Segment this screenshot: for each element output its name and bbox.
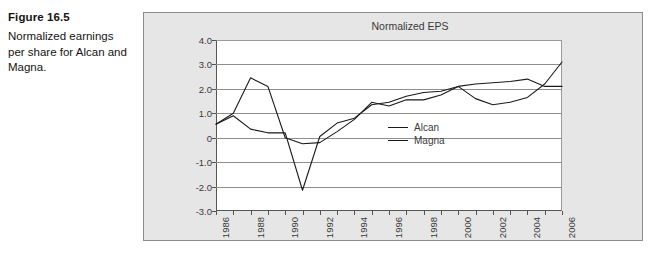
x-axis-tick xyxy=(303,211,304,215)
x-axis-tick xyxy=(458,211,459,215)
y-axis-tick-label: 4.0 xyxy=(199,35,212,46)
x-axis-tick xyxy=(527,211,528,215)
y-axis-tick-label: -1.0 xyxy=(196,157,212,168)
y-axis-tick-label: 0 xyxy=(207,132,212,143)
x-axis-tick-label: 2004 xyxy=(531,217,542,238)
gridline xyxy=(216,162,562,163)
x-axis-tick xyxy=(406,211,407,215)
chart-panel: Normalized EPS 4.03.02.01.00-1.0-2.0-3.0… xyxy=(143,12,643,241)
x-axis-tick-label: 1990 xyxy=(289,217,300,238)
legend-item-alcan: Alcan xyxy=(388,121,474,134)
figure-container: Figure 16.5 Normalized earnings per shar… xyxy=(0,0,651,257)
legend-label-magna: Magna xyxy=(414,134,445,147)
x-axis-tick-label: 1992 xyxy=(324,217,335,238)
x-axis-tick-label: 2002 xyxy=(497,217,508,238)
legend-label-alcan: Alcan xyxy=(414,121,439,134)
x-axis-tick-label: 1996 xyxy=(393,217,404,238)
legend-swatch-magna xyxy=(388,140,408,141)
x-axis-tick xyxy=(285,211,286,215)
y-axis-tick xyxy=(212,187,216,188)
x-axis-tick xyxy=(441,211,442,215)
y-axis-tick-label: -2.0 xyxy=(196,181,212,192)
y-axis-tick-label: 2.0 xyxy=(199,83,212,94)
gridline xyxy=(216,187,562,188)
y-axis-tick-label: 1.0 xyxy=(199,108,212,119)
figure-caption: Figure 16.5 Normalized earnings per shar… xyxy=(8,10,130,76)
legend-item-magna: Magna xyxy=(388,134,474,147)
x-axis-tick-label: 1986 xyxy=(220,217,231,238)
x-axis-tick xyxy=(545,211,546,215)
x-axis-tick xyxy=(562,211,563,215)
x-axis-tick xyxy=(389,211,390,215)
y-axis-tick xyxy=(212,40,216,41)
y-axis-tick xyxy=(212,138,216,139)
x-axis-tick xyxy=(493,211,494,215)
gridline xyxy=(216,89,562,90)
y-axis-tick xyxy=(212,113,216,114)
y-axis-tick xyxy=(212,64,216,65)
x-axis-tick xyxy=(354,211,355,215)
y-axis-tick xyxy=(212,162,216,163)
chart-title: Normalized EPS xyxy=(144,20,642,32)
x-axis-tick-label: 1988 xyxy=(255,217,266,238)
x-axis-tick xyxy=(372,211,373,215)
x-axis-tick-label: 1998 xyxy=(428,217,439,238)
y-axis-tick-label: 3.0 xyxy=(199,59,212,70)
x-axis-tick xyxy=(233,211,234,215)
x-axis-tick xyxy=(510,211,511,215)
x-axis-tick xyxy=(424,211,425,215)
y-axis-tick xyxy=(212,89,216,90)
x-axis-tick xyxy=(476,211,477,215)
figure-description: Normalized earnings per share for Alcan … xyxy=(8,29,130,76)
y-axis-tick-label: -3.0 xyxy=(196,206,212,217)
x-axis-tick xyxy=(337,211,338,215)
gridline xyxy=(216,113,562,114)
gridline xyxy=(216,64,562,65)
figure-number: Figure 16.5 xyxy=(8,10,130,25)
x-axis-tick xyxy=(268,211,269,215)
x-axis-tick xyxy=(251,211,252,215)
x-axis-tick-label: 2006 xyxy=(566,217,577,238)
x-axis-tick xyxy=(216,211,217,215)
x-axis-tick xyxy=(320,211,321,215)
x-axis-tick-label: 2000 xyxy=(462,217,473,238)
legend-swatch-alcan xyxy=(388,127,408,128)
chart-legend: Alcan Magna xyxy=(388,121,474,147)
x-axis-tick-label: 1994 xyxy=(358,217,369,238)
